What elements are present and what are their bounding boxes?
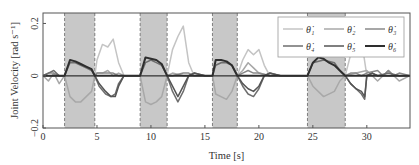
x-tick-label: 5 <box>94 131 99 142</box>
shaded-region-1 <box>140 13 167 128</box>
legend-box <box>278 17 404 57</box>
y-tick-label: 0.2 <box>29 17 40 30</box>
legend-label-3: θ̇₃ <box>388 24 397 35</box>
x-tick-label: 10 <box>146 131 156 142</box>
legend: θ̇₁θ̇₂θ̇₃θ̇₄θ̇₅θ̇₆ <box>278 17 404 57</box>
y-tick-label: −0.2 <box>29 119 40 137</box>
legend-label-4: θ̇₄ <box>306 41 315 52</box>
x-axis-label: Time [s] <box>209 150 245 161</box>
legend-label-1: θ̇₁ <box>306 24 314 35</box>
x-tick-label: 25 <box>308 131 318 142</box>
legend-label-5: θ̇₅ <box>347 41 356 52</box>
x-tick-label: 0 <box>41 131 46 142</box>
y-tick-label: 0 <box>29 73 40 78</box>
x-tick-label: 15 <box>200 131 210 142</box>
y-axis-label: Joint Velocity [rad s⁻¹] <box>9 22 20 119</box>
x-tick-label: 30 <box>362 131 372 142</box>
legend-label-2: θ̇₂ <box>347 24 356 35</box>
x-tick-label: 20 <box>254 131 264 142</box>
legend-label-6: θ̇₆ <box>388 41 397 52</box>
joint-velocity-chart: 051015202530 −0.200.2 Time [s] Joint Vel… <box>0 0 419 165</box>
